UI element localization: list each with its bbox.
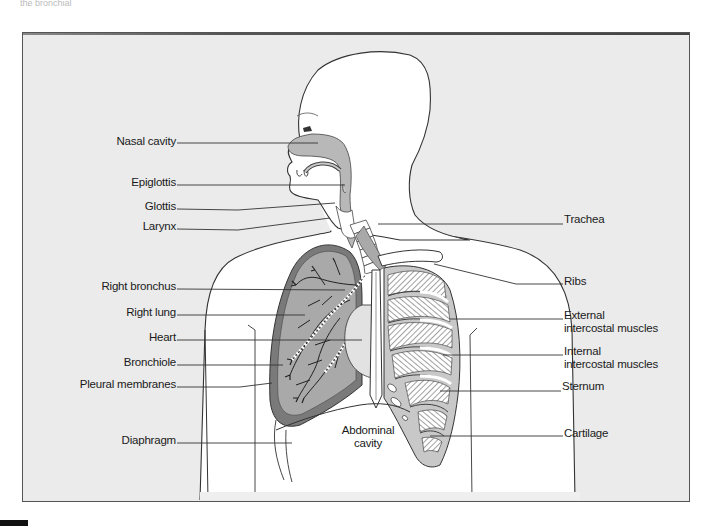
label-line-2: cavity	[328, 437, 408, 450]
label-heart: Heart	[149, 331, 176, 344]
label-ribs: Ribs	[564, 275, 586, 288]
label-line-1: External	[564, 309, 658, 322]
label-internal-intercostal-muscles: Internalintercostal muscles	[564, 345, 658, 371]
label-cartilage: Cartilage	[564, 427, 608, 440]
label-line-2: intercostal muscles	[564, 322, 658, 335]
label-external-intercostal-muscles: Externalintercostal muscles	[564, 309, 658, 335]
label-pleural-membranes: Pleural membranes	[80, 378, 176, 391]
label-line-1: Trachea	[564, 213, 604, 226]
glottis-leader-line	[177, 203, 335, 210]
label-sternum: Sternum	[562, 380, 604, 393]
label-diaphragm: Diaphragm	[122, 434, 176, 447]
label-line-1: Abdominal	[328, 424, 408, 437]
label-bronchiole: Bronchiole	[124, 356, 176, 369]
label-line-1: Sternum	[562, 380, 604, 393]
label-right-bronchus: Right bronchus	[101, 280, 176, 293]
label-epiglottis: Epiglottis	[131, 176, 176, 189]
corner-bar	[0, 520, 28, 526]
label-glottis: Glottis	[145, 200, 176, 213]
label-nasal-cavity: Nasal cavity	[116, 135, 176, 148]
label-line-1: Cartilage	[564, 427, 608, 440]
label-larynx: Larynx	[143, 220, 176, 233]
label-line-2: intercostal muscles	[564, 358, 658, 371]
label-abdominal-cavity: Abdominalcavity	[328, 424, 408, 450]
label-trachea: Trachea	[564, 213, 604, 226]
torso-bottom-edge	[200, 492, 580, 502]
label-right-lung: Right lung	[126, 306, 176, 319]
larynx-leader-line	[177, 218, 330, 230]
label-line-1: Internal	[564, 345, 658, 358]
label-line-1: Ribs	[564, 275, 586, 288]
